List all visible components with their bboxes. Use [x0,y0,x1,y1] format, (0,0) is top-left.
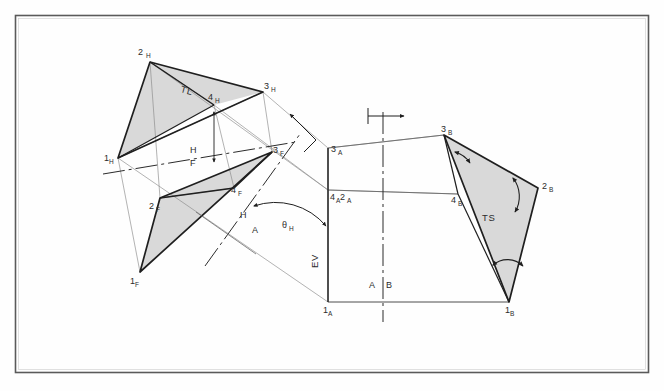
label-3f-main: 3 [273,145,278,155]
label-2a-sub: A [347,197,352,204]
label-4h-sub: H [215,97,220,104]
label-1f-sub: F [135,281,139,288]
label-fold-h-aux: H [240,210,247,220]
label-2b-sub: B [549,186,553,193]
label-3b-sub: B [448,129,452,136]
label-2f-sub: F [156,206,160,213]
label-4h-main: 4 [208,92,213,102]
label-4f-sub: F [238,190,242,197]
label-1a-sub: A [328,310,333,317]
label-fold-a-ab: A [369,280,375,290]
label-3a-main: 3 [331,144,336,154]
label-edge-view: EV [309,254,320,268]
label-fold-h-top: H [190,145,197,155]
label-fold-f-bottom: F [190,158,196,168]
label-3h-sub: H [271,86,276,93]
label-fold-b-ab: B [386,280,392,290]
label-1b-sub: B [510,310,514,317]
label-3f-sub: F [280,150,284,157]
label-fold-a-aux: A [252,225,258,235]
label-theta-sub: H [289,225,294,232]
label-4f-main: 4 [231,185,236,195]
label-2f-main: 2 [149,201,154,211]
label-3b-main: 3 [441,124,446,134]
label-theta-main: θ [282,220,287,230]
label-2h-main: 2 [138,47,143,57]
label-4b-sub: B [458,200,462,207]
geometry-drawing: 2 H 3 H 4 H 1 H 1 F 2 F 3 F [0,0,664,391]
label-true-size: TS [482,212,495,223]
label-4a-main: 4 [330,192,335,202]
label-2b-main: 2 [542,181,547,191]
label-2a-main: 2 [340,192,345,202]
drawing-sheet: 2 H 3 H 4 H 1 H 1 F 2 F 3 F [0,0,664,391]
label-2h-sub: H [146,52,151,59]
label-3h-main: 3 [264,81,269,91]
label-4b-main: 4 [451,195,456,205]
label-1h-sub: H [109,158,114,165]
label-3a-sub: A [338,149,343,156]
